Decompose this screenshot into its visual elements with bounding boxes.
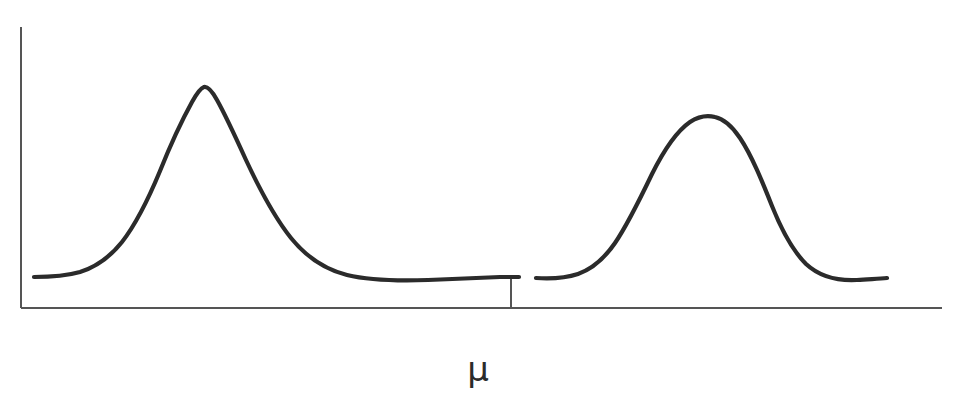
- density-curve-left-segment: [34, 87, 519, 281]
- density-curve-right-segment: [536, 116, 887, 280]
- figure-root: μ: [0, 0, 954, 405]
- plot-canvas: [0, 0, 954, 405]
